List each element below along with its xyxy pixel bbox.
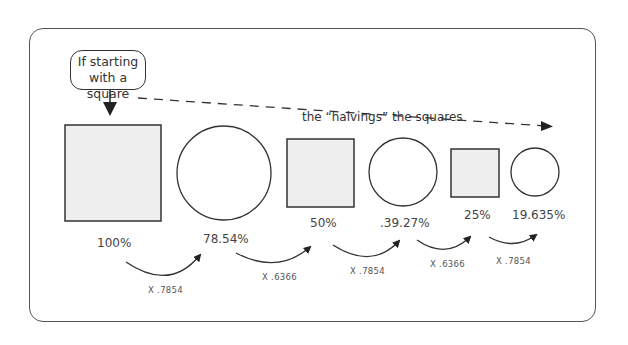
label-100: 100% [97, 236, 131, 250]
curve-arrow-4 [417, 237, 470, 249]
label-78: 78.54% [203, 232, 249, 246]
curve-arrow-2 [236, 247, 310, 263]
down-arrow-icon [103, 90, 117, 116]
multiplier-2: X .6366 [262, 272, 297, 282]
dashed-trend-arrow-icon [138, 98, 553, 131]
curve-arrow-5 [489, 235, 536, 244]
diagram-graphics [0, 0, 628, 345]
multiplier-3: X .7854 [350, 266, 385, 276]
label-50: 50% [310, 216, 337, 230]
circle-39 [369, 138, 437, 206]
circle-19 [511, 148, 559, 196]
label-39: .39.27% [380, 216, 430, 230]
label-19: 19.635% [512, 208, 565, 222]
square-25 [451, 149, 499, 197]
multiplier-1: X .7854 [148, 285, 183, 295]
multiplier-4: X .6366 [430, 259, 465, 269]
curve-arrow-3 [333, 241, 399, 257]
square-100 [65, 125, 161, 221]
circle-78 [177, 126, 271, 220]
multiplier-5: X .7854 [496, 256, 531, 266]
label-25: 25% [464, 208, 491, 222]
curve-arrow-1 [126, 255, 200, 275]
square-50 [287, 139, 354, 207]
